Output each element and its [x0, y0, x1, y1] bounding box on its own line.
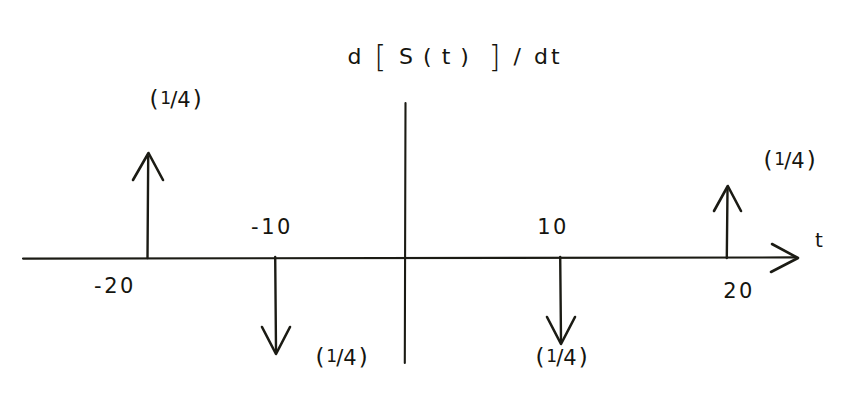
- paren-close: ): [579, 344, 589, 370]
- impulse-arrow-minus20: [133, 153, 163, 258]
- tick-label-20: 20: [723, 279, 755, 303]
- amplitude-label-10: (1/4): [535, 344, 588, 370]
- paren-open: (: [149, 86, 159, 112]
- title-bracket-close: ]: [489, 39, 504, 74]
- impulse-arrow-10: [547, 257, 575, 344]
- paren-open: (: [535, 344, 545, 370]
- title-bracket-open: [: [374, 39, 389, 74]
- paren-close: ): [359, 344, 369, 370]
- amplitude-label-20: (1/4): [763, 147, 816, 173]
- amplitude-label-minus20: (1/4): [149, 86, 202, 112]
- impulse-arrow-minus10: [262, 257, 290, 354]
- title-inner: S(t): [399, 44, 479, 69]
- fraction-denominator: 4: [177, 88, 191, 112]
- fraction-denominator: 4: [343, 346, 357, 370]
- tick-label-10: 10: [537, 215, 569, 239]
- fraction-numerator: 1: [326, 346, 338, 366]
- y-axis: [405, 103, 406, 363]
- x-axis: [23, 244, 798, 272]
- paren-open: (: [763, 147, 773, 173]
- fraction-numerator: 1: [774, 149, 786, 169]
- tick-label-minus10: -10: [251, 215, 293, 239]
- plot-title: d [ S(t) ] / dt: [347, 36, 562, 71]
- paren-close: ): [807, 147, 817, 173]
- tick-label-minus20: -20: [94, 274, 136, 298]
- amplitude-label-minus10: (1/4): [315, 344, 368, 370]
- x-axis-label: t: [815, 228, 824, 252]
- fraction-numerator: 1: [160, 88, 172, 108]
- impulse-plot-figure: d [ S(t) ] / dt (1/4) (1/4) (1/4) (1/4) …: [0, 0, 849, 411]
- fraction-denominator: 4: [563, 346, 577, 370]
- paren-close: ): [193, 86, 203, 112]
- fraction-numerator: 1: [546, 346, 558, 366]
- impulse-arrow-20: [714, 186, 741, 258]
- title-d: d: [347, 44, 364, 69]
- fraction-denominator: 4: [791, 149, 805, 173]
- title-tail: / dt: [514, 44, 563, 69]
- paren-open: (: [315, 344, 325, 370]
